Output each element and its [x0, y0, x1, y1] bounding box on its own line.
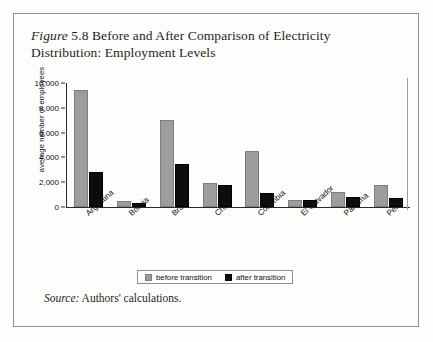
legend-swatch-before-icon: [145, 274, 152, 281]
bar-group: Panama: [324, 83, 367, 207]
y-tick-mark: [61, 157, 65, 158]
bar-group: Argentina: [67, 83, 110, 207]
plot-area: ArgentinaBoliviaBrazilChileColombiaEl Sa…: [66, 83, 410, 208]
figure-number: 5.8: [71, 28, 88, 43]
bar-group: Brazil: [153, 83, 196, 207]
y-tick-mark: [61, 132, 65, 133]
y-tick-mark: [61, 182, 65, 183]
y-tick-label: 6,000: [39, 128, 59, 137]
bar-group: Peru: [367, 83, 410, 207]
bar-before-transition: [374, 185, 388, 207]
source-note: Source: Authors' calculations.: [44, 292, 181, 304]
bar-before-transition: [203, 183, 217, 207]
bar-before-transition: [288, 200, 302, 207]
y-axis-ticks: 02,0004,0006,0008,00010,000: [25, 83, 65, 207]
figure-page: Figure 5.8 Before and After Comparison o…: [0, 0, 433, 342]
y-tick-label: 0: [55, 203, 59, 212]
bar-group: Colombia: [239, 83, 282, 207]
y-tick-label: 2,000: [39, 178, 59, 187]
y-tick-mark: [61, 207, 65, 208]
bar-before-transition: [117, 201, 131, 207]
figure-label: Figure: [31, 28, 68, 43]
legend-label-after: after transition: [236, 273, 285, 282]
y-tick-label: 4,000: [39, 153, 59, 162]
bar-group: Bolivia: [110, 83, 153, 207]
bar-group: Chile: [196, 83, 239, 207]
bar-group: El Salvador: [281, 83, 324, 207]
figure-title: Figure 5.8 Before and After Comparison o…: [31, 27, 386, 61]
bar-before-transition: [160, 120, 174, 207]
y-tick-mark: [61, 83, 65, 84]
y-tick-label: 10,000: [35, 79, 59, 88]
plot-right-rule: [407, 78, 408, 210]
chart-legend: before transition after transition: [137, 270, 293, 284]
legend-swatch-after-icon: [225, 274, 232, 281]
bar-before-transition: [74, 90, 88, 207]
legend-item-before: before transition: [145, 273, 212, 282]
source-prefix: Source:: [44, 292, 79, 304]
bar-before-transition: [331, 192, 345, 207]
legend-label-before: before transition: [156, 273, 212, 282]
bar-before-transition: [245, 151, 259, 207]
y-tick-label: 8,000: [39, 103, 59, 112]
chart-plot: average number of employees 02,0004,0006…: [25, 83, 410, 214]
source-text: Authors' calculations.: [82, 292, 182, 304]
legend-item-after: after transition: [225, 273, 285, 282]
y-tick-mark: [61, 107, 65, 108]
